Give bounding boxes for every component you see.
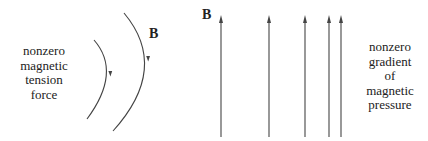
field-label-b-straight: B — [202, 7, 211, 23]
up-arrow-icon — [219, 15, 223, 23]
caption-line: pressure — [355, 98, 425, 113]
caption-line: force — [4, 88, 84, 103]
caption-line: magnetic — [4, 59, 84, 74]
outer-arc-field-line — [113, 13, 145, 131]
caption-line: gradient — [355, 55, 425, 70]
up-arrow-icon — [267, 15, 271, 23]
caption-line: nonzero — [355, 40, 425, 55]
inner-arc-arrow-icon — [108, 71, 112, 77]
outer-arc-arrow-icon — [146, 56, 150, 62]
tension-caption: nonzero magnetic tension force — [4, 44, 84, 102]
caption-line: magnetic — [355, 84, 425, 99]
pressure-caption: nonzero gradient of magnetic pressure — [355, 40, 425, 113]
straight-arrowheads — [219, 15, 343, 23]
caption-line: tension — [4, 73, 84, 88]
curved-field-lines — [87, 13, 145, 131]
caption-line: of — [355, 69, 425, 84]
up-arrow-icon — [303, 15, 307, 23]
caption-line: nonzero — [4, 44, 84, 59]
straight-field-lines — [221, 22, 341, 137]
inner-arc-field-line — [87, 40, 106, 119]
field-label-b-curved: B — [149, 26, 158, 42]
up-arrow-icon — [339, 15, 343, 23]
up-arrow-icon — [327, 15, 331, 23]
